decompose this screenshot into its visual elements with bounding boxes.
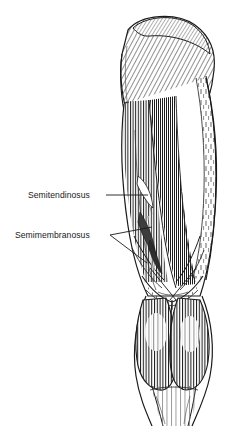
anatomical-figure: Semitendinosus Semimembranosus <box>0 0 234 428</box>
posterior-thigh-region <box>118 70 222 296</box>
calf-region <box>130 294 214 428</box>
label-semitendinosus: Semitendinosus <box>28 190 90 200</box>
limb-illustration <box>0 0 234 428</box>
label-semimembranosus: Semimembranosus <box>15 230 90 240</box>
